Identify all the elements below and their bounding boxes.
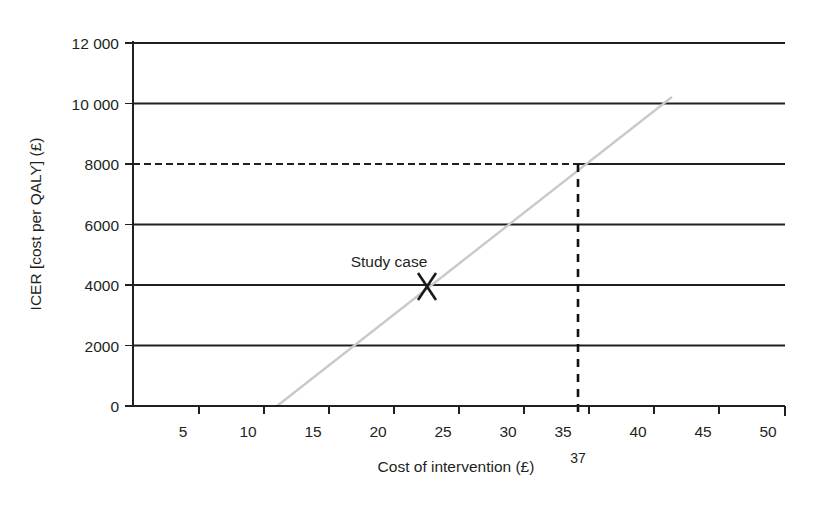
study-case-marker: [418, 273, 436, 300]
y-axis-title: ICER [cost per QALY] (£): [27, 138, 44, 311]
chart-canvas: 12 000 10 000 8000 6000 4000 2000 0 5 10…: [0, 0, 814, 511]
x-tick-label-20: 20: [369, 423, 387, 440]
x-tick-label-40: 40: [629, 423, 647, 440]
icer-threshold-line: [277, 97, 672, 406]
x-tick-labels: 5 10 15 20 25 30 35 40 45 50: [179, 423, 777, 440]
reference-value-label: 37: [570, 450, 586, 466]
x-axis-ticks: [199, 406, 719, 414]
y-tick-label-6000: 6000: [85, 217, 120, 234]
x-tick-label-10: 10: [239, 423, 257, 440]
y-tick-label-12000: 12 000: [72, 35, 120, 52]
y-tick-label-2000: 2000: [85, 338, 120, 355]
y-tick-label-10000: 10 000: [72, 96, 120, 113]
y-tick-label-4000: 4000: [85, 277, 120, 294]
x-tick-label-5: 5: [179, 423, 188, 440]
x-tick-label-45: 45: [694, 423, 711, 440]
x-tick-label-15: 15: [304, 423, 321, 440]
x-axis-title: Cost of intervention (£): [378, 458, 535, 475]
y-tick-label-8000: 8000: [85, 156, 120, 173]
x-tick-label-35: 35: [554, 423, 571, 440]
chart-figure: 12 000 10 000 8000 6000 4000 2000 0 5 10…: [0, 0, 814, 511]
x-tick-label-50: 50: [759, 423, 777, 440]
study-case-label: Study case: [351, 253, 428, 270]
x-tick-label-25: 25: [434, 423, 451, 440]
x-tick-label-30: 30: [499, 423, 517, 440]
y-tick-label-0: 0: [110, 398, 119, 415]
gridlines: [133, 43, 785, 346]
y-tick-labels: 12 000 10 000 8000 6000 4000 2000 0: [72, 35, 120, 415]
